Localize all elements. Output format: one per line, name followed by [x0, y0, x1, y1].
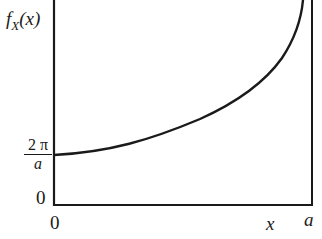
density-curve: [54, 0, 303, 155]
y-tick-zero: 0: [36, 188, 46, 207]
x-tick-zero: 0: [50, 213, 60, 232]
y-axis-label-arg: (x): [19, 8, 40, 29]
y-axis-label: fX(x): [6, 9, 40, 32]
x-tick-a: a: [304, 210, 314, 229]
chart-plot: [0, 0, 322, 239]
y-tick-2pi-over-a: 2 π a: [24, 137, 52, 172]
y-tick-numerator: 2 π: [24, 137, 52, 155]
y-tick-denominator: a: [24, 155, 52, 172]
x-axis-label: x: [266, 214, 274, 233]
